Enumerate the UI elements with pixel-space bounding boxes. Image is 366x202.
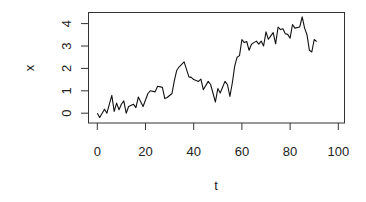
x-tick-label: 60 bbox=[235, 144, 249, 159]
y-tick-label: 3 bbox=[59, 42, 74, 49]
x-axis-label: t bbox=[214, 178, 218, 193]
x-tick-label: 40 bbox=[186, 144, 200, 159]
x-tick-label: 20 bbox=[138, 144, 152, 159]
x-tick-label: 100 bbox=[327, 144, 349, 159]
y-tick-label: 1 bbox=[59, 87, 74, 94]
y-axis: 01234 bbox=[59, 20, 89, 117]
series-line-x bbox=[97, 17, 316, 118]
y-axis-label: x bbox=[22, 64, 37, 71]
y-tick-label: 4 bbox=[59, 20, 74, 27]
x-tick-label: 0 bbox=[94, 144, 101, 159]
x-axis: 020406080100 bbox=[94, 123, 349, 159]
y-tick-label: 0 bbox=[59, 110, 74, 117]
y-tick-label: 2 bbox=[59, 65, 74, 72]
plot-frame bbox=[89, 13, 345, 124]
time-series-chart: 020406080100 01234 t x bbox=[0, 0, 366, 202]
x-tick-label: 80 bbox=[283, 144, 297, 159]
